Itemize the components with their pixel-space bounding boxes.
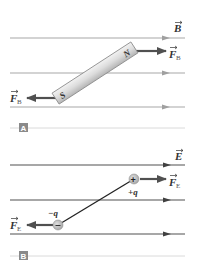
positive-charge: + +q [128, 174, 139, 197]
field-arrowhead-icon [162, 71, 170, 76]
positive-charge-label: +q [128, 187, 138, 197]
svg-text:E: E [176, 182, 180, 190]
field-arrowhead-icon [163, 232, 171, 237]
negative-charge: −q [48, 208, 63, 230]
svg-text:B: B [17, 98, 22, 106]
force-label-fe-left: F E [9, 217, 21, 233]
field-arrowhead-icon [162, 105, 170, 110]
diagram-canvas: B F B F B S N A [0, 0, 197, 273]
field-label-e: E [174, 149, 183, 162]
field-arrowhead-icon [162, 36, 170, 41]
dipole-rod [58, 179, 134, 225]
force-label-fb-left: F B [9, 90, 22, 106]
panel-badge-a: A [19, 123, 28, 133]
negative-charge-label: −q [48, 208, 58, 218]
field-arrowhead-icon [163, 198, 171, 203]
panel-badge-b: B [19, 251, 28, 261]
field-arrowhead-icon [163, 163, 171, 168]
svg-text:E: E [17, 225, 21, 233]
svg-text:B: B [21, 252, 27, 261]
field-label-b: B [173, 21, 182, 34]
svg-text:B: B [176, 54, 181, 62]
force-label-fe-right: F E [168, 174, 180, 190]
panel-a-magnetic: B F B F B S N A [9, 21, 185, 133]
svg-text:A: A [21, 124, 27, 133]
force-label-fb-right: F B [168, 46, 181, 62]
panel-b-electric: E F E F E + +q −q [9, 149, 185, 261]
plus-sign-icon: + [131, 175, 136, 185]
